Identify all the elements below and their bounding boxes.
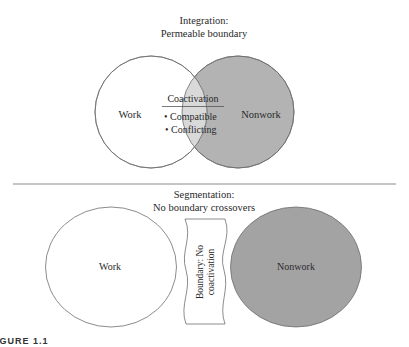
integration-panel: Integration: Permeable boundary Work Non… bbox=[95, 15, 294, 168]
integration-title-line1: Integration: bbox=[180, 15, 229, 26]
segmentation-nonwork-label: Nonwork bbox=[277, 261, 315, 272]
segmentation-panel: Segmentation: No boundary crossovers Wor… bbox=[46, 189, 362, 327]
boundary-label-group: Boundary: No coactivation bbox=[195, 245, 216, 299]
integration-work-label: Work bbox=[118, 109, 142, 120]
segmentation-work-label: Work bbox=[99, 261, 121, 272]
overlap-item-conflicting: • Conflicting bbox=[165, 124, 217, 135]
integration-title-line2: Permeable boundary bbox=[161, 28, 248, 39]
segmentation-title-line2: No boundary crossovers bbox=[153, 202, 255, 213]
segmentation-title-line1: Segmentation: bbox=[174, 189, 235, 200]
integration-nonwork-label: Nonwork bbox=[241, 109, 281, 120]
overlap-item-compatible: • Compatible bbox=[164, 111, 217, 122]
figure-caption: IGURE 1.1 bbox=[0, 336, 49, 346]
overlap-heading: Coactivation bbox=[167, 93, 218, 104]
boundary-label-line1: Boundary: No bbox=[195, 245, 205, 299]
boundary-label-line2: coactivation bbox=[206, 249, 216, 296]
